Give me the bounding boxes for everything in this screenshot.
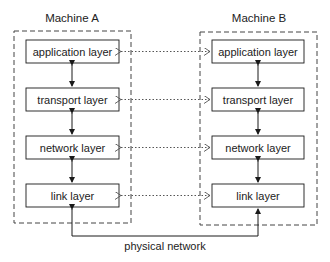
peer-connections (121, 52, 210, 196)
machine-a: Machine A application layer transport la… (14, 12, 131, 223)
physical-network-label: physical network (124, 240, 206, 252)
machine-a-link-layer-label: link layer (51, 190, 95, 202)
machine-a-title: Machine A (45, 12, 99, 24)
machine-b-transport-layer-label: transport layer (223, 94, 294, 106)
machine-b-title: Machine B (232, 12, 287, 24)
machine-a-transport-layer-label: transport layer (37, 94, 108, 106)
machine-b-application-layer-label: application layer (218, 46, 298, 58)
machine-b-network-layer-label: network layer (225, 142, 291, 154)
protocol-stack-diagram: Machine A application layer transport la… (0, 0, 330, 262)
physical-network: physical network (72, 209, 258, 252)
machine-a-application-layer-label: application layer (33, 46, 113, 58)
machine-a-network-layer-label: network layer (40, 142, 106, 154)
machine-b-link-layer-label: link layer (236, 190, 280, 202)
machine-b: Machine B application layer transport la… (200, 12, 317, 225)
